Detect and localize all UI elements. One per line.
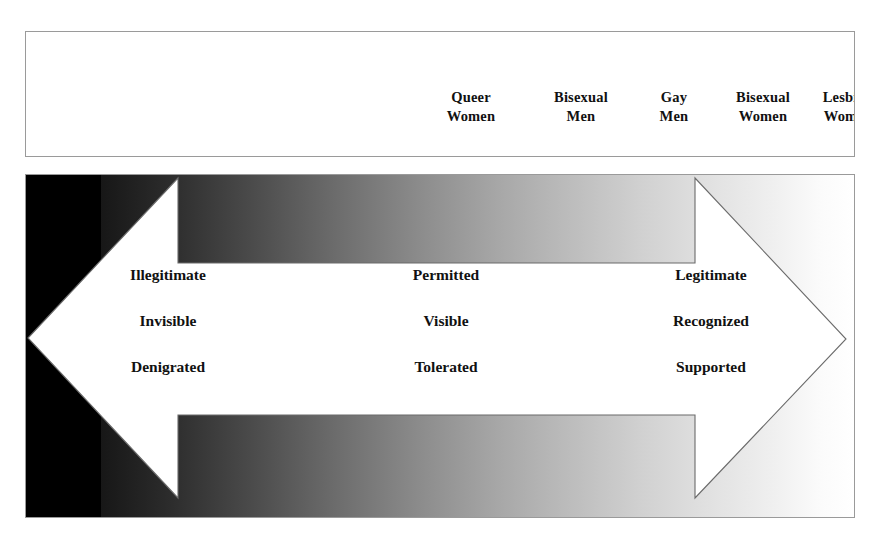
spectrum-label: Bisexual Men <box>554 88 608 126</box>
term-column: LegitimateRecognizedSupported <box>673 252 749 390</box>
zone-of-transition-box: IllegitimateInvisibleDenigratedPermitted… <box>25 174 855 518</box>
zone-term: Illegitimate <box>130 252 206 298</box>
zone-term: Legitimate <box>673 252 749 298</box>
zone-term: Permitted <box>413 252 479 298</box>
identity-spectrum-bar: Non-binary/ Genderqueer PeopleTrans MenQ… <box>25 31 855 157</box>
term-column: IllegitimateInvisibleDenigrated <box>130 252 206 390</box>
zone-term: Visible <box>413 298 479 344</box>
zone-term: Recognized <box>673 298 749 344</box>
zone-term: Denigrated <box>130 344 206 390</box>
spectrum-diagram: Non-binary/ Genderqueer PeopleTrans MenQ… <box>0 0 880 542</box>
spectrum-label: Bisexual Women <box>736 88 790 126</box>
zone-term: Supported <box>673 344 749 390</box>
spectrum-label: Lesbian Women <box>823 88 855 126</box>
spectrum-label: Queer Women <box>447 88 496 126</box>
zone-term: Tolerated <box>413 344 479 390</box>
spectrum-label: Queer Men <box>246 88 286 126</box>
spectrum-label: Trans Women <box>332 88 381 126</box>
zone-term: Invisible <box>130 298 206 344</box>
spectrum-label: Non-binary/ Genderqueer People <box>47 88 131 145</box>
spectrum-label: Trans Men <box>165 88 202 126</box>
term-column: PermittedVisibleTolerated <box>413 252 479 390</box>
spectrum-label: Gay Men <box>660 88 689 126</box>
